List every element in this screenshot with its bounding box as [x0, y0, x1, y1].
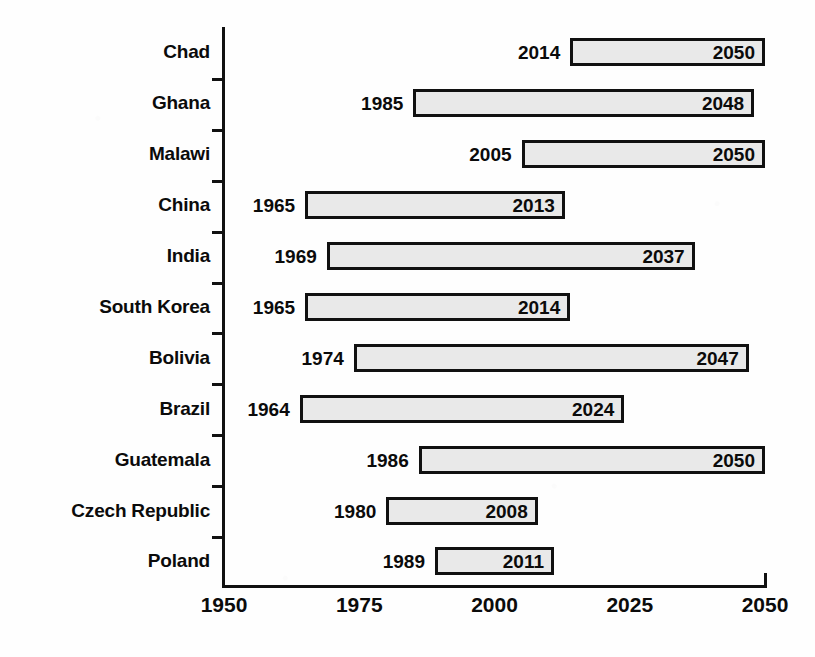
- category-label-china: China: [158, 195, 210, 214]
- y-axis-tick: [212, 383, 223, 386]
- y-axis-tick: [212, 485, 223, 488]
- category-label-ghana: Ghana: [152, 93, 210, 112]
- bar-end-value-label: 2013: [513, 196, 555, 215]
- range-bar-chart: ChadGhanaMalawiChinaIndiaSouth KoreaBoli…: [0, 0, 815, 657]
- bar-ghana[interactable]: 2048: [413, 89, 754, 117]
- x-axis-tick-label-1950: 1950: [201, 594, 248, 615]
- bar-end-value-label: 2050: [713, 450, 755, 469]
- bar-start-value-label: 1969: [269, 247, 317, 266]
- bar-malawi[interactable]: 2050: [522, 140, 765, 168]
- bar-poland[interactable]: 2011: [435, 547, 554, 575]
- bar-start-value-label: 1965: [247, 196, 295, 215]
- bar-end-value-label: 2008: [485, 501, 527, 520]
- bar-start-value-label: 1965: [247, 297, 295, 316]
- category-label-bolivia: Bolivia: [149, 348, 210, 367]
- bar-end-value-label: 2050: [713, 43, 755, 62]
- bar-start-value-label: 2014: [512, 43, 560, 62]
- y-axis-tick: [212, 78, 223, 81]
- plot-area: ChadGhanaMalawiChinaIndiaSouth KoreaBoli…: [0, 0, 815, 657]
- category-label-malawi: Malawi: [149, 144, 210, 163]
- category-label-guatemala: Guatemala: [115, 450, 210, 469]
- x-axis-right-cap: [764, 573, 767, 588]
- y-axis-tick: [212, 332, 223, 335]
- bar-start-value-label: 1985: [355, 94, 403, 113]
- category-label-brazil: Brazil: [159, 399, 210, 418]
- y-axis-tick: [212, 180, 223, 183]
- bar-start-value-label: 1989: [377, 552, 425, 571]
- bar-end-value-label: 2047: [696, 348, 738, 367]
- bar-start-value-label: 1986: [361, 450, 409, 469]
- bar-start-value-label: 1964: [242, 399, 290, 418]
- bar-end-value-label: 2024: [572, 399, 614, 418]
- x-axis-tick-label-2050: 2050: [742, 594, 789, 615]
- category-label-chad: Chad: [163, 42, 210, 61]
- bar-guatemala[interactable]: 2050: [419, 446, 765, 474]
- bar-start-value-label: 1980: [328, 501, 376, 520]
- y-axis-tick: [212, 231, 223, 234]
- category-label-south-korea: South Korea: [99, 297, 210, 316]
- x-axis-left-cap: [222, 573, 225, 588]
- bar-brazil[interactable]: 2024: [300, 395, 625, 423]
- bar-czech-republic[interactable]: 2008: [386, 497, 537, 525]
- x-axis-tick-label-2000: 2000: [471, 594, 518, 615]
- bar-chad[interactable]: 2050: [570, 38, 765, 66]
- x-axis-tick-label-1975: 1975: [336, 594, 383, 615]
- bar-start-value-label: 1974: [296, 348, 344, 367]
- category-label-czech-republic: Czech Republic: [71, 501, 210, 520]
- y-axis-tick: [212, 129, 223, 132]
- x-axis-tick-label-2025: 2025: [606, 594, 653, 615]
- y-axis-tick: [212, 536, 223, 539]
- category-label-india: India: [167, 246, 210, 265]
- bar-end-value-label: 2014: [518, 297, 560, 316]
- bar-end-value-label: 2050: [713, 145, 755, 164]
- bar-china[interactable]: 2013: [305, 191, 565, 219]
- bar-india[interactable]: 2037: [327, 242, 695, 270]
- bar-end-value-label: 2011: [503, 552, 544, 571]
- x-axis-line: [222, 585, 767, 588]
- bar-south-korea[interactable]: 2014: [305, 293, 570, 321]
- y-axis-line: [222, 27, 225, 587]
- y-axis-tick: [212, 434, 223, 437]
- category-label-poland: Poland: [148, 551, 210, 570]
- bar-end-value-label: 2037: [642, 247, 684, 266]
- bar-end-value-label: 2048: [702, 94, 744, 113]
- bar-start-value-label: 2005: [464, 145, 512, 164]
- y-axis-tick: [212, 282, 223, 285]
- bar-bolivia[interactable]: 2047: [354, 344, 749, 372]
